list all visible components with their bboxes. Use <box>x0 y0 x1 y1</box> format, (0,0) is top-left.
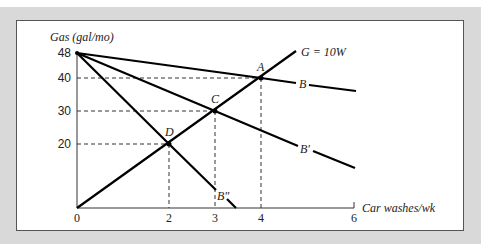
x-axis-title: Car washes/wk <box>362 201 436 215</box>
label-B: B <box>299 77 307 91</box>
y-tick-20: 20 <box>58 137 72 151</box>
label-C: C <box>211 92 220 106</box>
label-Bp: B′ <box>300 142 310 156</box>
label-D: D <box>164 125 174 139</box>
point-A <box>259 76 264 81</box>
line-Bp-right <box>313 151 355 168</box>
y-axis-title: Gas (gal/mo) <box>50 30 114 44</box>
line-G <box>77 51 296 208</box>
point-y-intercept <box>75 51 79 55</box>
x-tick-2: 2 <box>166 211 172 225</box>
line-B-right <box>309 85 356 91</box>
x-tick-6: 6 <box>351 211 357 225</box>
x-tick-4: 4 <box>258 211 264 225</box>
x-tick-0: 0 <box>74 211 80 225</box>
series-lines <box>77 51 356 208</box>
label-G: G = 10W <box>301 45 347 59</box>
x-tick-3: 3 <box>212 211 218 225</box>
y-tick-30: 30 <box>58 104 72 118</box>
y-tick-40: 40 <box>58 71 72 85</box>
line-Bpp-top <box>77 53 216 190</box>
point-C <box>213 109 218 114</box>
label-A: A <box>256 60 265 74</box>
label-Bpp: B″ <box>217 189 230 203</box>
point-D <box>167 142 172 147</box>
chart-svg: Gas (gal/mo) Car washes/wk 48 40 30 20 0… <box>0 0 486 244</box>
y-tick-48: 48 <box>58 46 72 60</box>
